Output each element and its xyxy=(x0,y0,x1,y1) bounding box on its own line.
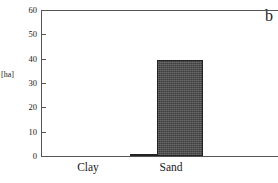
bar-sand xyxy=(130,154,157,156)
y-axis-tick xyxy=(42,59,46,60)
y-axis-tick-label: 40 xyxy=(29,55,38,64)
y-axis-tick-labels: 0102030405060 xyxy=(0,0,37,183)
x-axis-category-labels: ClaySand xyxy=(41,160,278,182)
bar-chart-figure: b [ha] 0102030405060 ClaySand xyxy=(0,0,278,183)
plot-top-border xyxy=(41,10,278,11)
y-axis-tick xyxy=(42,132,46,133)
y-axis-tick-label: 0 xyxy=(33,152,37,161)
plot-area xyxy=(41,10,278,157)
bar-sand xyxy=(157,60,203,156)
x-axis-line xyxy=(41,156,278,157)
x-axis-label-sand: Sand xyxy=(160,162,183,174)
x-axis-label-clay: Clay xyxy=(77,162,99,174)
y-axis-tick-label: 30 xyxy=(29,79,38,88)
y-axis-tick-label: 20 xyxy=(29,103,38,112)
y-axis-tick-label: 10 xyxy=(29,128,38,137)
y-axis-tick-label: 60 xyxy=(29,6,38,15)
y-axis-tick xyxy=(42,34,46,35)
y-axis-tick-label: 50 xyxy=(29,30,38,39)
y-axis-tick xyxy=(42,107,46,108)
y-axis-tick xyxy=(42,83,46,84)
